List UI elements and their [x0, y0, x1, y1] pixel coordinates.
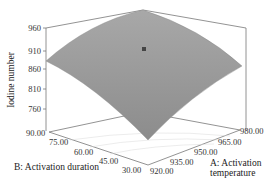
z-tick-label: 960	[28, 23, 41, 33]
z-tick-label: 810	[28, 84, 41, 94]
design-point-marker	[142, 47, 146, 51]
x-axis: 920.00 935.00 950.00 965.00 980.00 A: Ac…	[150, 126, 264, 178]
x-tick-label: 935.00	[170, 157, 193, 167]
y-axis-label: B: Activation duration	[14, 162, 99, 172]
z-tick-label: 760	[28, 104, 41, 114]
z-tick-label: 910	[28, 46, 41, 56]
y-tick-label: 90.00	[26, 128, 45, 138]
x-tick-label: 965.00	[218, 137, 241, 147]
x-axis-label: A: Activation temperature	[210, 158, 264, 178]
z-tick-label: 860	[28, 64, 41, 74]
x-axis-label-line1: A: Activation	[210, 158, 262, 168]
y-tick-label: 30.00	[122, 165, 141, 175]
x-tick-label: 920.00	[150, 166, 173, 176]
y-tick-label: 60.00	[74, 147, 93, 157]
x-axis-label-line2: temperature	[210, 168, 255, 178]
y-tick-label: 45.00	[99, 156, 118, 166]
x-tick-label: 950.00	[194, 147, 217, 157]
z-axis: 960 910 860 810 760 Iodine number	[6, 23, 46, 114]
x-tick-label: 980.00	[240, 126, 263, 136]
z-axis-label: Iodine number	[6, 51, 16, 108]
y-tick-label: 75.00	[49, 137, 68, 147]
response-surface	[46, 10, 242, 140]
response-surface-chart: 960 910 860 810 760 Iodine number 90.00 …	[0, 0, 278, 185]
